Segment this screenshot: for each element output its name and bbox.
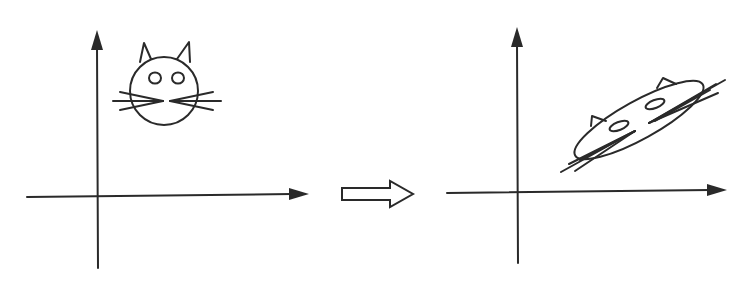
right-y-axis-arrowhead-icon xyxy=(511,27,523,47)
cat-right-eye xyxy=(172,73,184,84)
cat-whisker xyxy=(120,101,163,110)
cat-whisker xyxy=(170,92,213,101)
transformed-cat-icon xyxy=(561,68,725,172)
left-x-axis xyxy=(27,194,292,197)
right-y-axis xyxy=(517,43,518,263)
right-x-axis xyxy=(447,190,710,193)
cat-whisker xyxy=(655,90,710,121)
left-y-axis-arrowhead-icon xyxy=(91,30,103,50)
right-axes xyxy=(447,27,727,263)
transformation-diagram xyxy=(0,0,749,282)
left-axes xyxy=(27,30,309,268)
original-cat-icon xyxy=(113,42,221,125)
right-x-axis-arrowhead-icon xyxy=(707,184,727,196)
cat-left-ear xyxy=(140,43,151,62)
left-x-axis-arrowhead-icon xyxy=(289,188,309,200)
cat-left-eye xyxy=(608,119,630,134)
cat-right-eye xyxy=(644,97,666,112)
cat-left-eye xyxy=(149,73,161,84)
transform-arrow-icon xyxy=(342,181,413,207)
cat-whisker xyxy=(170,101,213,110)
cat-right-ear xyxy=(177,42,190,62)
cat-whisker xyxy=(120,92,163,101)
cat-head xyxy=(130,57,198,125)
left-y-axis xyxy=(97,46,98,268)
